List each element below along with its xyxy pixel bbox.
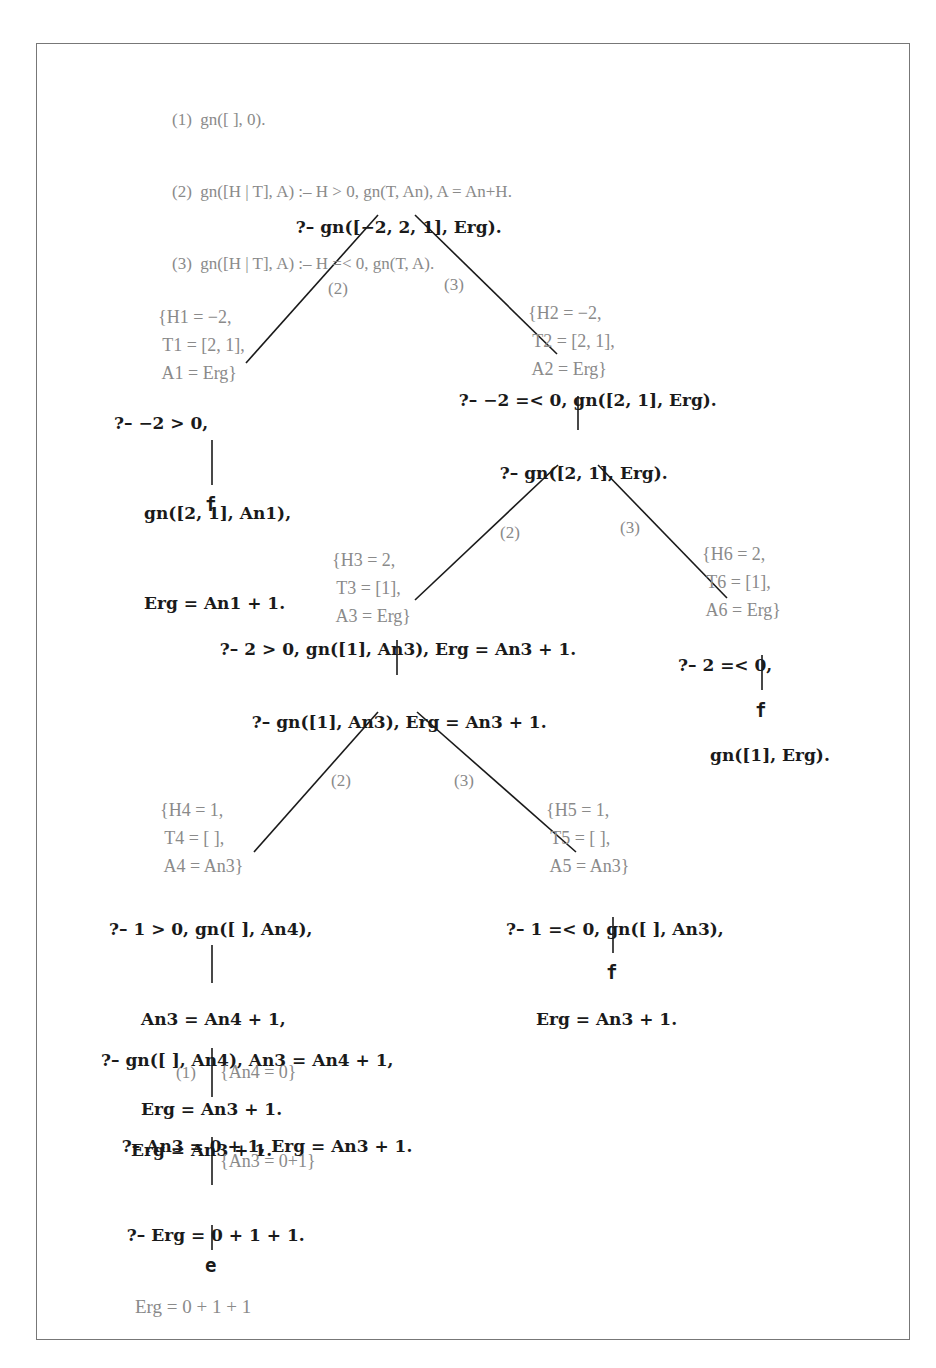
goal-n2: ?– gn([2, 1], Erg). <box>488 428 668 488</box>
edge-label-n4-left: (2) <box>331 766 351 796</box>
leaf-fail-n3-right: f <box>755 695 766 725</box>
answer: Erg = 0 + 1 + 1 <box>135 1292 251 1322</box>
edge-label-n2-left: (2) <box>500 518 520 548</box>
goal-n1-right: ?– −2 =< 0, gn([2, 1], Erg). <box>447 355 717 415</box>
edge-label-root-right: (3) <box>444 270 464 300</box>
goal-n8: ?– Erg = 0 + 1 + 1. <box>115 1190 305 1250</box>
leaf-fail-n1-left: f <box>205 489 216 519</box>
substitution-s8: {An3 = 0+1} <box>220 1147 316 1175</box>
edge-label-n2-right: (3) <box>620 513 640 543</box>
clause-1: (1) gn([ ], 0). <box>172 108 512 132</box>
goal-n4: ?– gn([1], An3), Erg = An3 + 1. <box>240 677 547 737</box>
substitution-s7: {An4 = 0} <box>220 1058 296 1086</box>
edge-label-n4-right: (3) <box>454 766 474 796</box>
edge-label-clause1: (1) <box>176 1058 196 1088</box>
goal-n1-left: ?– −2 > 0, gn([2, 1], An1), Erg = An1 + … <box>114 348 291 648</box>
leaf-success: e <box>205 1250 216 1280</box>
goal-root: ?– gn([−2, 2, 1], Erg). <box>284 182 502 242</box>
leaf-fail-n5-right: f <box>606 957 617 987</box>
edge-label-root-left: (2) <box>328 274 348 304</box>
goal-n3-left: ?– 2 > 0, gn([1], An3), Erg = An3 + 1. <box>208 604 576 664</box>
goal-n3-right: ?– 2 =< 0, gn([1], Erg). <box>678 590 830 800</box>
